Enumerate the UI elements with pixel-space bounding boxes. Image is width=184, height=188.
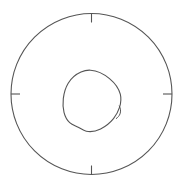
pole-figure-canvas (0, 0, 184, 188)
pole-figure-container: Pole Figure Stereographic Projection Cir… (0, 0, 184, 188)
plot-background (0, 0, 184, 188)
